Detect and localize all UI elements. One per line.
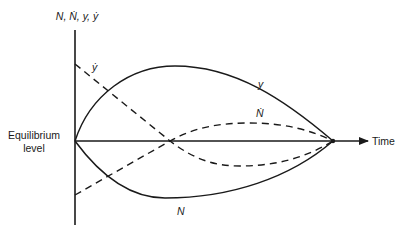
convergence-point (331, 139, 335, 143)
label-y-dot: ẏ (91, 61, 98, 73)
label-n: N (177, 205, 185, 217)
label-y: y (257, 78, 264, 90)
equilibrium-label: Equilibrium (8, 129, 60, 141)
y-axis-label: N, Ṅ, y, ẏ (56, 10, 99, 22)
dynamics-diagram: N, Ṅ, y, ẏ Time Equilibrium level ẏ y Ṅ … (0, 0, 413, 235)
time-label: Time (372, 135, 395, 147)
label-n-dot: Ṅ (256, 107, 264, 119)
curve-y (75, 66, 333, 141)
equilibrium-level-label: level (23, 142, 45, 154)
curve-n (75, 141, 333, 198)
curve-y-dot (75, 64, 333, 166)
